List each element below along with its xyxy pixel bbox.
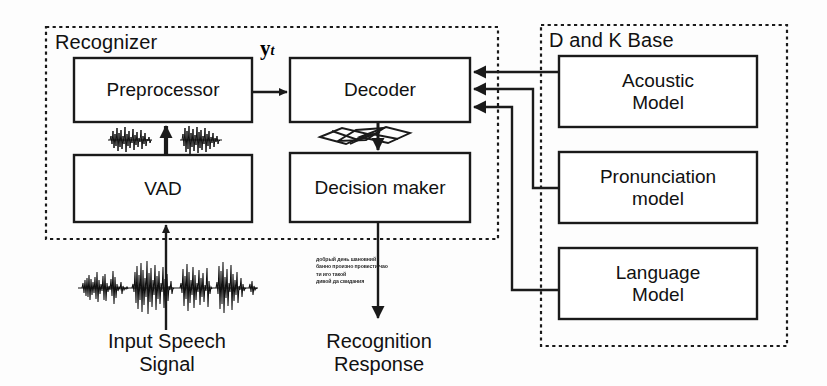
panel-title-dk-base: D and K Base: [549, 29, 674, 52]
box-decision-maker: [290, 153, 470, 222]
figure-canvas: Recognizer D and K Base Preprocessor VAD…: [0, 0, 827, 386]
vad-waveform-right: [180, 126, 222, 154]
box-vad: [74, 155, 252, 222]
input-waveform: [78, 261, 258, 314]
box-preprocessor: [74, 58, 252, 122]
box-language-model: [559, 248, 757, 319]
connector-pronunciation-to-decoder: [474, 89, 559, 188]
box-decoder: [290, 58, 470, 122]
word-lattice: [320, 127, 410, 144]
box-pronunciation-model: [559, 152, 757, 223]
connector-language-to-decoder: [474, 107, 559, 290]
label-recognition-response: Recognition Response: [288, 330, 470, 376]
vad-waveform-left: [108, 127, 152, 152]
feature-vector-symbol: y: [260, 36, 271, 60]
recognized-transcript-sample: добрый день шановний банно произно прове…: [316, 256, 428, 286]
feature-vector-subscript: t: [271, 43, 275, 58]
diagram-svg: [0, 0, 827, 386]
label-input-speech-signal: Input Speech Signal: [76, 330, 258, 376]
panel-title-recognizer: Recognizer: [55, 31, 157, 54]
feature-vector-label: yt: [260, 36, 274, 61]
box-acoustic-model: [559, 56, 757, 127]
